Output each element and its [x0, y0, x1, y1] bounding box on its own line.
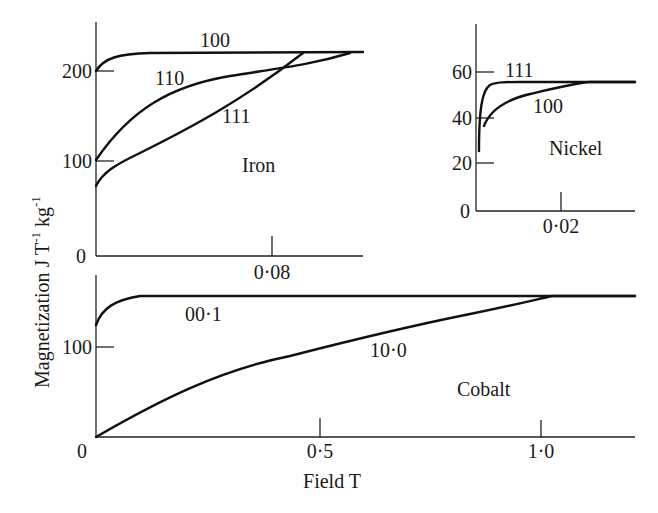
cobalt-label-100: 10·0 — [370, 339, 407, 361]
iron-label-111: 111 — [222, 105, 251, 127]
nickel-tick-0: 0 — [460, 200, 470, 222]
magnetization-figure: Magnetization J T-1 kg-1 200 100 0 0·08 … — [0, 0, 658, 513]
y-axis-label: Magnetization J T-1 kg-1 — [28, 196, 54, 388]
x-axis-label: Field T — [303, 470, 361, 492]
cobalt-curve-100 — [96, 296, 635, 437]
nickel-tick-20: 20 — [452, 152, 472, 174]
iron-panel: 200 100 0 0·08 100 110 111 Iron — [62, 22, 363, 283]
nickel-label-100: 100 — [533, 95, 563, 117]
cobalt-tick-05: 0·5 — [307, 440, 334, 462]
iron-title: Iron — [242, 154, 275, 176]
nickel-title: Nickel — [549, 137, 603, 159]
cobalt-curve-001 — [96, 296, 635, 325]
iron-tick-200: 200 — [62, 60, 92, 82]
iron-tick-008: 0·08 — [254, 261, 291, 283]
iron-label-100: 100 — [200, 29, 230, 51]
iron-curve-100 — [96, 52, 363, 71]
nickel-label-111: 111 — [505, 59, 534, 81]
iron-tick-0: 0 — [76, 245, 86, 267]
nickel-panel: 60 40 20 0 0·02 111 100 Nickel — [452, 24, 635, 237]
cobalt-tick-10: 1·0 — [528, 440, 555, 462]
nickel-tick-40: 40 — [452, 107, 472, 129]
cobalt-title: Cobalt — [457, 378, 511, 400]
nickel-tick-002: 0·02 — [543, 215, 580, 237]
cobalt-tick-0: 0 — [77, 440, 87, 462]
nickel-tick-60: 60 — [452, 61, 472, 83]
cobalt-panel: 100 0 0·5 1·0 Field T 00·1 10·0 Cobalt — [62, 275, 635, 492]
iron-label-110: 110 — [155, 67, 184, 89]
cobalt-label-001: 00·1 — [185, 303, 222, 325]
cobalt-tick-100: 100 — [62, 336, 92, 358]
iron-tick-100: 100 — [62, 150, 92, 172]
